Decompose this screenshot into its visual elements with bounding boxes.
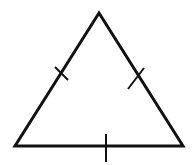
equilateral-triangle xyxy=(15,13,183,146)
triangle-figure xyxy=(0,0,194,165)
diagram-canvas xyxy=(0,0,194,165)
